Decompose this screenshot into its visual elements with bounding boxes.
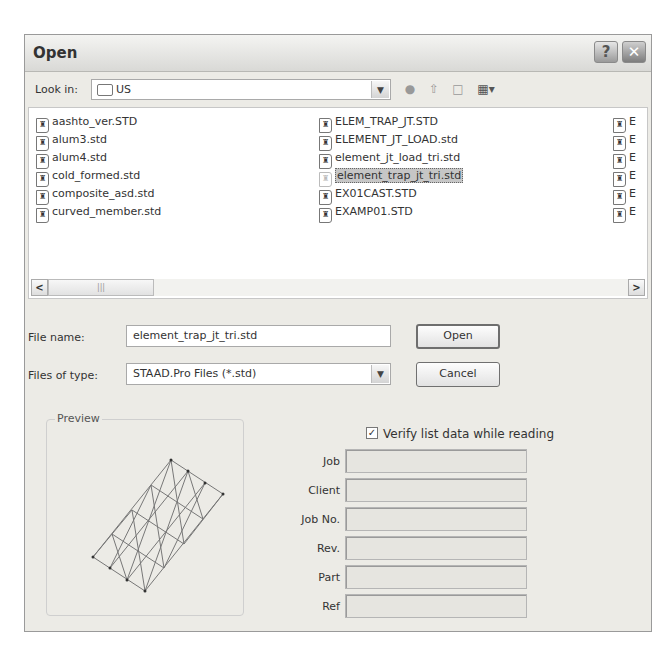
staad-file-icon: ♜ — [613, 136, 626, 151]
staad-file-icon: ♜ — [36, 136, 49, 151]
file-name-input[interactable]: element_trap_jt_tri.std — [126, 325, 391, 347]
open-button[interactable]: Open — [416, 324, 500, 349]
help-button[interactable]: ? — [594, 41, 618, 63]
file-item[interactable]: ♜cold_formed.std — [36, 168, 140, 184]
file-item[interactable]: ♜E — [613, 168, 636, 184]
file-item[interactable]: ♜alum4.std — [36, 150, 107, 166]
part-label: Part — [280, 571, 340, 584]
staad-file-icon: ♜ — [613, 172, 626, 187]
file-item[interactable]: ♜EX01CAST.STD — [319, 186, 417, 202]
file-item[interactable]: ♜E — [613, 204, 636, 220]
file-item[interactable]: ♜E — [613, 132, 636, 148]
title-bar[interactable]: Open ? ✕ — [25, 35, 651, 72]
staad-file-icon: ♜ — [613, 118, 626, 133]
part-field — [345, 565, 527, 589]
file-item[interactable]: ♜EXAMP01.STD — [319, 204, 413, 220]
job-no-field — [345, 507, 527, 531]
scroll-right-button[interactable]: > — [628, 279, 645, 296]
dialog-title: Open — [33, 44, 77, 62]
look-in-combo[interactable]: US ▼ — [91, 79, 391, 100]
staad-file-icon: ♜ — [319, 118, 332, 133]
file-type-combo[interactable]: STAAD.Pro Files (*.std) ▼ — [126, 363, 391, 385]
chevron-down-icon[interactable]: ▼ — [371, 365, 389, 383]
file-type-value: STAAD.Pro Files (*.std) — [133, 367, 256, 380]
up-folder-icon[interactable]: ⇧ — [425, 80, 443, 98]
model-preview-image — [47, 420, 243, 615]
folder-icon — [97, 84, 113, 96]
job-no-label: Job No. — [280, 513, 340, 526]
close-button[interactable]: ✕ — [622, 41, 646, 63]
staad-file-icon: ♜ — [36, 208, 49, 223]
staad-file-icon: ♜ — [319, 172, 332, 187]
file-item[interactable]: ♜ELEM_TRAP_JT.STD — [319, 114, 438, 130]
open-dialog: Open ? ✕ Look in: US ▼ ● ⇧ □ ▦▾ ♜aashto_… — [24, 34, 652, 632]
file-item[interactable]: ♜element_jt_load_tri.std — [319, 150, 460, 166]
verify-label[interactable]: Verify list data while reading — [383, 427, 554, 441]
look-in-label: Look in: — [35, 83, 78, 96]
back-icon[interactable]: ● — [401, 80, 419, 98]
file-item[interactable]: ♜ELEMENT_JT_LOAD.std — [319, 132, 458, 148]
scroll-left-button[interactable]: < — [31, 279, 48, 296]
job-field — [345, 449, 527, 473]
job-label: Job — [280, 455, 340, 468]
staad-file-icon: ♜ — [613, 208, 626, 223]
file-item[interactable]: ♜E — [613, 186, 636, 202]
file-item-selected[interactable]: ♜element_trap_jt_tri.std — [319, 168, 463, 184]
ref-label: Ref — [280, 600, 340, 613]
verify-checkbox[interactable]: ✓ — [366, 427, 378, 439]
staad-file-icon: ♜ — [319, 190, 332, 205]
horizontal-scrollbar[interactable]: < ||| > — [31, 279, 645, 296]
staad-file-icon: ♜ — [36, 172, 49, 187]
new-folder-icon[interactable]: □ — [449, 80, 467, 98]
client-field — [345, 478, 527, 502]
staad-file-icon: ♜ — [36, 154, 49, 169]
file-name-label: File name: — [28, 331, 85, 344]
staad-file-icon: ♜ — [36, 190, 49, 205]
staad-file-icon: ♜ — [319, 208, 332, 223]
file-list[interactable]: ♜aashto_ver.STD ♜alum3.std ♜alum4.std ♜c… — [28, 107, 648, 299]
ref-field — [345, 594, 527, 618]
file-item[interactable]: ♜E — [613, 114, 636, 130]
staad-file-icon: ♜ — [319, 154, 332, 169]
file-item[interactable]: ♜aashto_ver.STD — [36, 114, 137, 130]
file-item[interactable]: ♜curved_member.std — [36, 204, 161, 220]
chevron-down-icon[interactable]: ▼ — [371, 81, 389, 98]
client-label: Client — [280, 484, 340, 497]
rev-field — [345, 536, 527, 560]
staad-file-icon: ♜ — [613, 154, 626, 169]
staad-file-icon: ♜ — [319, 136, 332, 151]
file-type-label: Files of type: — [28, 369, 98, 382]
file-item[interactable]: ♜E — [613, 150, 636, 166]
staad-file-icon: ♜ — [36, 118, 49, 133]
cancel-button[interactable]: Cancel — [416, 362, 500, 387]
preview-group: Preview — [46, 419, 244, 616]
file-item[interactable]: ♜composite_asd.std — [36, 186, 155, 202]
rev-label: Rev. — [280, 542, 340, 555]
view-menu-icon[interactable]: ▦▾ — [473, 80, 499, 98]
scroll-thumb[interactable]: ||| — [48, 279, 154, 296]
staad-file-icon: ♜ — [613, 190, 626, 205]
look-in-value: US — [116, 83, 131, 96]
file-item[interactable]: ♜alum3.std — [36, 132, 107, 148]
